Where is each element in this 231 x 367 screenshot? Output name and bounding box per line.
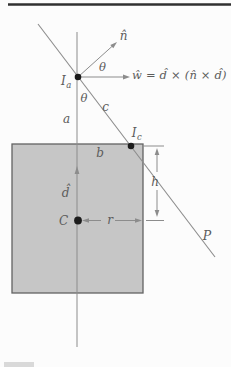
point-Ia-label: Ia <box>61 75 71 87</box>
diagram-canvas <box>0 0 231 367</box>
h-dimension-down-arrowhead-icon <box>155 210 160 217</box>
physics-diagram: n̂ θ ŵ = d̂ × (n̂ × d̂) Ia θ c a Ic b h … <box>0 0 231 367</box>
center-point-label: C <box>59 215 68 227</box>
plane-label: P <box>203 230 211 243</box>
segment-b-label: b <box>96 147 104 159</box>
segment-c-label: c <box>102 101 109 113</box>
segment-a-label: a <box>63 113 70 125</box>
point-Ic-label: Ic <box>132 127 142 139</box>
h-dimension-up-arrowhead-icon <box>155 148 160 155</box>
point-Ic-dot <box>128 143 135 150</box>
h-dimension-label: h <box>151 176 159 188</box>
figure-number-strip <box>4 362 34 367</box>
theta-lower-label: θ <box>81 93 88 105</box>
w-equation-label: ŵ = d̂ × (n̂ × d̂) <box>132 70 227 82</box>
w-vector-arrowhead-icon <box>123 75 130 80</box>
center-point-dot <box>74 217 82 225</box>
d-vector-label: d̂ <box>62 187 70 199</box>
point-Ia-label-sub: a <box>66 80 71 90</box>
normal-vector-shaft <box>78 46 113 78</box>
theta-upper-label: θ <box>99 62 106 74</box>
r-dimension-label: r <box>107 214 113 226</box>
normal-vector-label: n̂ <box>120 30 128 42</box>
point-Ic-label-sub: c <box>137 132 142 142</box>
point-Ia-dot <box>75 74 82 81</box>
